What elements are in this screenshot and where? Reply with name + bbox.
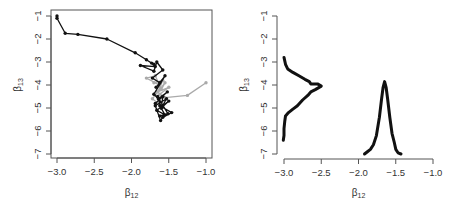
x-axis-label: β12 bbox=[352, 187, 366, 199]
data-point bbox=[76, 33, 79, 36]
data-point bbox=[154, 104, 157, 107]
x-axis-label: β12 bbox=[125, 187, 139, 199]
data-point bbox=[139, 64, 142, 67]
y-tick-label: −3 bbox=[258, 57, 269, 68]
data-point bbox=[154, 86, 157, 89]
y-tick-label: −4 bbox=[32, 80, 43, 91]
data-point bbox=[152, 70, 155, 73]
chart-canvas: −3.0−2.5−2.0−1.5−1.0−1−2−3−4−5−6−7β12β13… bbox=[0, 0, 452, 206]
y-tick-label: −5 bbox=[32, 103, 43, 114]
x-tick-label: −1.5 bbox=[159, 166, 178, 177]
y-tick-label: −1 bbox=[258, 11, 269, 22]
panel-right-density-plot: −3.0−2.5−2.0−1.5−1.0−1−2−3−4−5−6−7β12β13 bbox=[238, 11, 442, 199]
data-point bbox=[204, 81, 207, 84]
y-axis-label: β13 bbox=[12, 78, 24, 92]
data-point bbox=[151, 97, 154, 100]
data-point bbox=[152, 81, 155, 84]
data-point bbox=[167, 86, 170, 89]
data-point bbox=[63, 32, 66, 35]
data-point bbox=[134, 51, 137, 54]
y-tick-label: −3 bbox=[32, 57, 43, 68]
data-point bbox=[160, 88, 163, 91]
data-point bbox=[161, 95, 164, 98]
data-point bbox=[105, 37, 108, 40]
y-tick-label: −4 bbox=[258, 80, 269, 91]
data-point bbox=[170, 111, 173, 114]
data-point bbox=[163, 81, 166, 84]
y-axis-label: β13 bbox=[238, 78, 250, 92]
data-point bbox=[159, 119, 162, 122]
data-point bbox=[166, 112, 169, 115]
panel-left-trace-plot: −3.0−2.5−2.0−1.5−1.0−1−2−3−4−5−6−7β12β13 bbox=[12, 10, 215, 199]
y-tick-label: −1 bbox=[32, 11, 43, 22]
data-point bbox=[186, 94, 189, 97]
y-tick-label: −7 bbox=[32, 149, 43, 160]
x-tick-label: −2.0 bbox=[122, 166, 141, 177]
data-point bbox=[55, 17, 58, 20]
plot-frame bbox=[51, 10, 212, 158]
series-density-beta12 bbox=[365, 82, 402, 154]
y-tick-label: −6 bbox=[258, 126, 269, 137]
data-point bbox=[156, 95, 159, 98]
y-tick-label: −6 bbox=[32, 126, 43, 137]
x-tick-label: −1.5 bbox=[386, 167, 405, 178]
y-tick-label: −2 bbox=[32, 34, 43, 45]
data-point bbox=[155, 109, 158, 112]
data-point bbox=[163, 74, 166, 77]
figure: −3.0−2.5−2.0−1.5−1.0−1−2−3−4−5−6−7β12β13… bbox=[0, 0, 452, 206]
data-point bbox=[160, 106, 163, 109]
x-tick-label: −3.0 bbox=[48, 166, 67, 177]
x-tick-label: −2.5 bbox=[85, 166, 104, 177]
data-point bbox=[145, 58, 148, 61]
data-point bbox=[145, 76, 148, 79]
x-tick-label: −3.0 bbox=[275, 167, 294, 178]
x-tick-label: −2.5 bbox=[312, 167, 331, 178]
x-tick-label: −1.0 bbox=[424, 167, 443, 178]
data-point bbox=[158, 114, 161, 117]
x-tick-label: −1.0 bbox=[197, 166, 216, 177]
data-point bbox=[166, 90, 169, 93]
data-point bbox=[158, 81, 161, 84]
y-tick-label: −5 bbox=[258, 103, 269, 114]
series-density-beta13 bbox=[283, 57, 321, 140]
data-point bbox=[161, 116, 164, 119]
data-point bbox=[152, 93, 155, 96]
data-point bbox=[151, 76, 154, 79]
y-tick-label: −7 bbox=[258, 149, 269, 160]
data-point bbox=[155, 60, 158, 63]
data-point bbox=[165, 97, 168, 100]
x-tick-label: −2.0 bbox=[349, 167, 368, 178]
data-point bbox=[161, 68, 164, 71]
data-point bbox=[154, 65, 157, 68]
y-tick-label: −2 bbox=[258, 34, 269, 45]
